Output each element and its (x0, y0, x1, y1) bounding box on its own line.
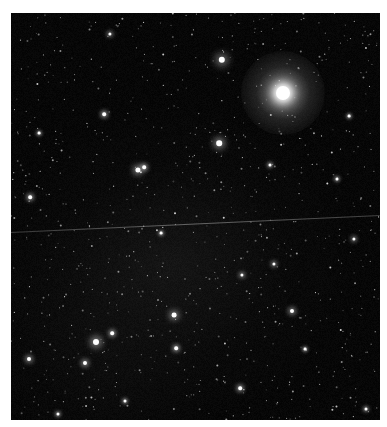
satellite-trail (11, 215, 380, 233)
star (365, 408, 368, 411)
star (108, 32, 111, 35)
diffuse-glow (11, 13, 380, 420)
star (38, 132, 41, 135)
starfield-image (11, 13, 380, 420)
star (272, 262, 275, 265)
star (135, 167, 140, 172)
star (27, 357, 31, 361)
star (160, 232, 163, 235)
star (336, 178, 339, 181)
star (348, 115, 351, 118)
star (124, 400, 127, 403)
star (102, 112, 106, 116)
star (219, 57, 225, 63)
star (172, 313, 177, 318)
star (83, 361, 87, 365)
star (93, 339, 99, 345)
bright-star (276, 86, 290, 100)
star (269, 164, 272, 167)
star (290, 309, 294, 313)
star (304, 348, 307, 351)
star (28, 195, 32, 199)
star (240, 273, 243, 276)
star (216, 140, 222, 146)
star (142, 165, 146, 169)
star (110, 331, 114, 335)
faint-stars-layer (11, 13, 380, 420)
star (238, 386, 242, 390)
star (352, 237, 355, 240)
star (57, 413, 60, 416)
star (174, 346, 178, 350)
